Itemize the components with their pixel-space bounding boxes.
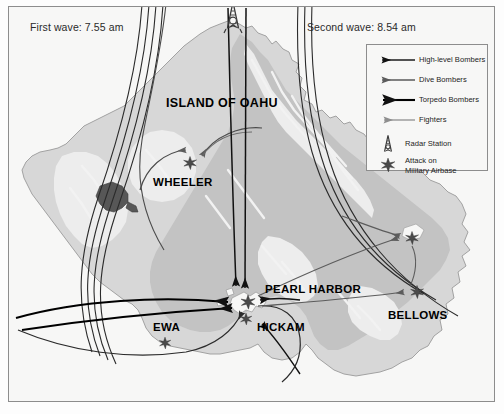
legend-item-dive-bombers: Dive Bombers <box>373 73 467 87</box>
legend-item-fighters: Fighters <box>373 113 446 127</box>
place-label-hickam: HICKAM <box>257 321 305 333</box>
dive-bombers-arrow-icon <box>373 73 417 87</box>
legend-label-dive-bombers: Dive Bombers <box>419 75 467 85</box>
place-label-wheeler: WHEELER <box>153 176 213 188</box>
first-wave-time-label: First wave: 7.55 am <box>30 21 124 33</box>
fighters-arrow-icon <box>373 113 417 127</box>
legend-label-radar-station: Radar Station <box>405 139 451 149</box>
attack-arrow-pearl-north-b <box>245 8 246 288</box>
attack-burst-icon <box>373 153 403 179</box>
legend-label-attack-military-airbase: Attack on Military Airbase <box>405 156 456 175</box>
place-label-island-of-oahu: ISLAND OF OAHU <box>166 96 278 110</box>
pearl-harbor-attack-map: First wave: 7.55 am Second wave: 8.54 am… <box>0 0 504 414</box>
legend-label-high-level-bombers: High-level Bombers <box>419 55 485 65</box>
legend-label-fighters: Fighters <box>419 115 446 125</box>
legend-item-high-level-bombers: High-level Bombers <box>373 53 485 67</box>
high-level-bombers-arrow-icon <box>373 53 417 67</box>
place-label-pearl-harbor: PEARL HARBOR <box>265 283 361 295</box>
map-legend: High-level Bombers Dive Bombers Torpedo … <box>366 44 488 171</box>
second-wave-time-label: Second wave: 8.54 am <box>307 21 416 33</box>
legend-item-torpedo-bombers: Torpedo Bombers <box>373 93 479 107</box>
place-label-bellows: BELLOWS <box>388 309 448 321</box>
legend-label-torpedo-bombers: Torpedo Bombers <box>419 95 479 105</box>
torpedo-bombers-arrow-icon <box>373 93 417 107</box>
legend-item-attack-military-airbase: Attack on Military Airbase <box>373 153 456 179</box>
place-label-ewa: EWA <box>153 321 180 333</box>
